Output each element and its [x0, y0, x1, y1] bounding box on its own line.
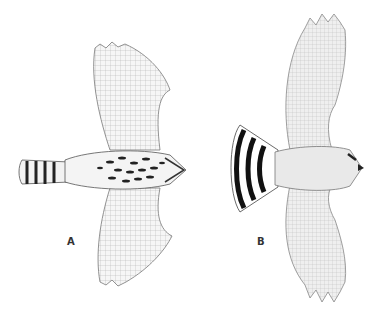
hawks-drawing: [0, 0, 381, 319]
label-a: A: [67, 236, 75, 247]
label-b: B: [257, 236, 265, 247]
bird-b: [231, 14, 364, 302]
hawk-illustration: A B: [0, 0, 381, 319]
bird-a: [19, 42, 186, 286]
